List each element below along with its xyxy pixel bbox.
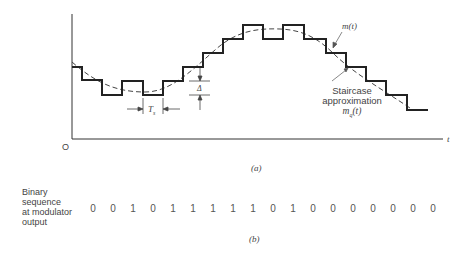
bit: 0 — [348, 203, 358, 214]
binary-label-line-4: output — [22, 217, 72, 227]
bit: 1 — [208, 203, 218, 214]
x-axis-label: t — [447, 134, 450, 144]
bit: 1 — [288, 203, 298, 214]
staircase-symbol: mq(t) — [312, 106, 392, 120]
bit: 1 — [128, 203, 138, 214]
ts-label: Ts — [148, 104, 155, 118]
bit: 1 — [188, 203, 198, 214]
bit: 0 — [88, 203, 98, 214]
bit: 0 — [108, 203, 118, 214]
caption-a: (a) — [251, 163, 262, 173]
binary-sequence-label: Binary sequence at modulator output — [22, 187, 72, 227]
bit: 1 — [228, 203, 238, 214]
bit: 0 — [368, 203, 378, 214]
staircase-label-line-2: approximation — [312, 96, 392, 106]
signal-label: m(t) — [342, 21, 357, 31]
bit: 0 — [388, 203, 398, 214]
origin-label: O — [62, 142, 69, 152]
bit: 0 — [428, 203, 438, 214]
caption-b: (b) — [249, 234, 260, 244]
bit: 0 — [328, 203, 338, 214]
staircase-label: Staircase approximation mq(t) — [312, 86, 392, 120]
bit: 0 — [148, 203, 158, 214]
delta-label: Δ — [197, 84, 202, 94]
bit: 1 — [168, 203, 178, 214]
binary-label-line-2: sequence — [22, 197, 72, 207]
bit: 0 — [308, 203, 318, 214]
bit: 0 — [408, 203, 418, 214]
binary-label-line-3: at modulator — [22, 207, 72, 217]
binary-label-line-1: Binary — [22, 187, 72, 197]
bit: 0 — [268, 203, 278, 214]
bit: 1 — [248, 203, 258, 214]
